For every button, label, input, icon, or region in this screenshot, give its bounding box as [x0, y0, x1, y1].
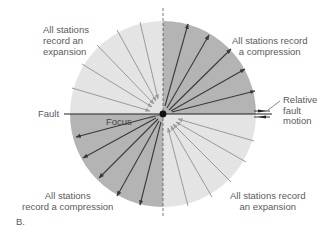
se-label-line1: All stations record [230, 190, 306, 201]
relative-fault-motion-icon [254, 101, 280, 119]
se-quadrant-label: All stations record an expansion [230, 190, 306, 212]
nw-label-line3: expansion [43, 46, 89, 57]
relative-fault-motion-label: Relative fault motion [283, 95, 317, 127]
sw-label-line1: All stations [22, 190, 113, 201]
rfm-line1: Relative [283, 95, 317, 106]
sw-quadrant-label: All stations record a compression [22, 190, 113, 212]
ne-quadrant-label: All stations record a compression [232, 35, 308, 57]
nw-label-line1: All stations [43, 24, 89, 35]
focus-point [160, 111, 167, 118]
ne-label-line1: All stations record [232, 35, 308, 46]
nw-quadrant-label: All stations record an expansion [43, 24, 89, 57]
fault-label: Fault [38, 108, 59, 119]
rfm-line3: motion [283, 116, 317, 127]
ne-label-line2: a compression [232, 46, 308, 57]
sw-label-line2: record a compression [22, 201, 113, 212]
se-label-line2: an expansion [230, 201, 306, 212]
nw-label-line2: record an [43, 35, 89, 46]
focus-label: Focus [106, 116, 132, 127]
panel-label: B. [16, 216, 25, 227]
